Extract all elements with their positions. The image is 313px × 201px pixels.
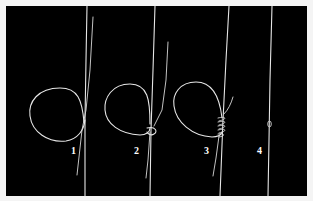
step-2-label: 2 xyxy=(134,145,139,156)
step-4-label: 4 xyxy=(257,145,262,156)
knot-diagram: 1 2 3 4 xyxy=(0,0,313,201)
step-1-label: 1 xyxy=(71,145,76,156)
diagram-background xyxy=(6,6,307,196)
step-3-label: 3 xyxy=(204,145,209,156)
